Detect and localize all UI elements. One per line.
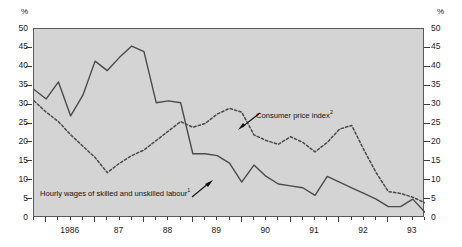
- y-axis-tick-label-right: 40: [431, 61, 453, 70]
- wages-footnote-marker: 1: [187, 187, 190, 193]
- y-axis-labels-right: 05101520253035404550: [431, 0, 457, 247]
- chart-container: % % 05101520253035404550 051015202530354…: [0, 0, 462, 247]
- y-axis-tick-label-left: 20: [6, 137, 28, 146]
- x-axis-tick-label: 92: [358, 226, 367, 235]
- y-axis-tick-label-left: 40: [6, 61, 28, 70]
- y-axis-tick-mark: [26, 198, 32, 199]
- y-axis-tick-label-right: 35: [431, 80, 453, 89]
- y-axis-tick-label-right: 25: [431, 118, 453, 127]
- y-axis-tick-mark: [26, 47, 32, 48]
- series-line-cpi: [34, 101, 425, 203]
- x-axis-tick-label: 88: [163, 226, 172, 235]
- y-axis-tick-label-left: 45: [6, 42, 28, 51]
- y-axis-tick-label-right: 20: [431, 137, 453, 146]
- y-axis-tick-label-left: 35: [6, 80, 28, 89]
- wages-annotation-text: Hourly wages of skilled and unskilled la…: [40, 189, 187, 198]
- cpi-footnote-marker: 2: [330, 109, 333, 115]
- y-axis-tick-label-left: 0: [6, 213, 28, 222]
- y-axis-tick-label-left: 5: [6, 194, 28, 203]
- y-axis-tick-label-left: 15: [6, 156, 28, 165]
- y-axis-tick-mark: [26, 141, 32, 142]
- y-axis-tick-label-right: 30: [431, 99, 453, 108]
- y-axis-labels-left: 05101520253035404550: [3, 0, 28, 247]
- y-axis-tick-label-right: 45: [431, 42, 453, 51]
- cpi-annotation-text: Consumer price index: [256, 111, 330, 120]
- series-line-wages: [34, 46, 425, 212]
- x-axis-tick-label: 91: [309, 226, 318, 235]
- x-axis-tick-label: 93: [407, 226, 416, 235]
- y-axis-tick-mark: [26, 160, 32, 161]
- y-axis-tick-label-right: 0: [431, 213, 453, 222]
- y-axis-tick-label-right: 10: [431, 175, 453, 184]
- cpi-annotation-label: Consumer price index2: [256, 112, 333, 120]
- y-axis-tick-label-right: 50: [431, 24, 453, 33]
- y-axis-tick-label-left: 25: [6, 118, 28, 127]
- y-axis-tick-label-right: 15: [431, 156, 453, 165]
- y-axis-tick-mark: [26, 66, 32, 67]
- x-axis-tick-label: 1986: [60, 226, 79, 235]
- y-axis-tick-label-left: 50: [6, 24, 28, 33]
- y-axis-tick-mark: [26, 85, 32, 86]
- wages-annotation-label: Hourly wages of skilled and unskilled la…: [40, 190, 190, 198]
- y-axis-tick-label-left: 30: [6, 99, 28, 108]
- y-axis-tick-mark: [26, 179, 32, 180]
- y-axis-tick-label-left: 10: [6, 175, 28, 184]
- wages-annotation-arrow: [190, 178, 214, 200]
- x-axis-tick-label: 87: [114, 226, 123, 235]
- y-axis-tick-label-right: 5: [431, 194, 453, 203]
- y-axis-tick-mark: [26, 104, 32, 105]
- x-axis-tick-label: 90: [260, 226, 269, 235]
- x-axis-tick-label: 89: [212, 226, 221, 235]
- y-axis-tick-mark: [26, 123, 32, 124]
